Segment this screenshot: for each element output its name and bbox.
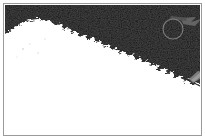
streak-marker-label: faint gray streak (0, 0, 1, 1)
blob-marker-label: small gray blob (0, 0, 1, 1)
boundary-label: jagged diagonal edge (0, 0, 1, 1)
screenshot-root: Binary threshold image High-contrast bin… (0, 0, 205, 139)
binary-image (5, 5, 200, 134)
image-description: High-contrast binary image: white foregr… (0, 0, 1, 1)
image-panel-frame (3, 3, 202, 136)
panel-title: Binary threshold image (0, 0, 1, 1)
circle-marker-label: circle annotation (0, 0, 1, 1)
arrow-marker-label: arrow pointing right (0, 0, 1, 1)
image-canvas[interactable] (5, 5, 200, 134)
